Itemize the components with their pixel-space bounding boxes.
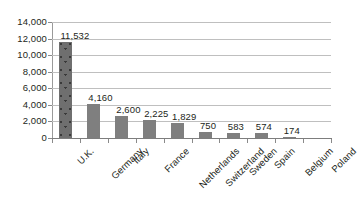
- y-tick-label: 2,000: [23, 116, 47, 126]
- bar-netherlands: [171, 123, 184, 138]
- data-label: 174: [284, 126, 300, 136]
- bar-italy: [115, 116, 128, 138]
- x-tick-mark: [192, 139, 193, 143]
- y-tick-label: 12,000: [17, 34, 47, 44]
- bar-france: [143, 120, 156, 138]
- data-label: 2,225: [144, 109, 168, 119]
- bar-switzerland: [199, 132, 212, 138]
- x-tick-mark: [136, 139, 137, 143]
- x-tick-mark: [219, 139, 220, 143]
- data-label: 11,532: [60, 31, 89, 41]
- x-tick-mark: [275, 139, 276, 143]
- x-tick-mark: [331, 139, 332, 143]
- y-tick-label: 8,000: [23, 67, 47, 77]
- x-tick-mark: [80, 139, 81, 143]
- data-label: 1,829: [172, 112, 196, 122]
- category-label-belgium: Belgium: [303, 146, 335, 178]
- y-tick-label: 14,000: [17, 17, 47, 27]
- y-tick-label: 4,000: [23, 100, 47, 110]
- bar-spain: [255, 133, 268, 138]
- bar-germany: [87, 104, 100, 138]
- y-tick-label: 0: [42, 133, 47, 143]
- data-label: 750: [200, 121, 216, 131]
- category-label-u-k: U.K.: [75, 146, 95, 166]
- bar-u-k: [59, 42, 72, 138]
- x-tick-mark: [303, 139, 304, 143]
- category-label-poland: Poland: [330, 146, 358, 174]
- y-tick-label: 10,000: [17, 50, 47, 60]
- data-label: 574: [256, 122, 272, 132]
- y-tick-label: 6,000: [23, 83, 47, 93]
- x-tick-mark: [52, 139, 53, 143]
- category-label-france: France: [162, 146, 190, 174]
- x-tick-mark: [108, 139, 109, 143]
- data-label: 2,600: [116, 105, 140, 115]
- x-tick-mark: [164, 139, 165, 143]
- data-label: 4,160: [88, 93, 112, 103]
- x-tick-mark: [247, 139, 248, 143]
- bar-sweden: [227, 133, 240, 138]
- data-label: 583: [228, 122, 244, 132]
- bar-belgium: [283, 137, 296, 138]
